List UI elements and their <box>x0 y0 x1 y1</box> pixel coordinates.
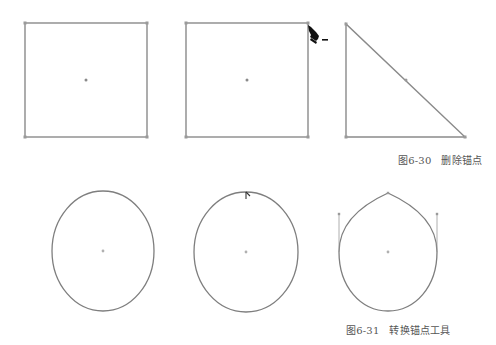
square-original <box>24 22 149 139</box>
center-point <box>387 251 390 254</box>
center-point <box>245 251 248 254</box>
ellipse-original <box>52 191 154 311</box>
ellipse-convert-anchor <box>194 192 298 312</box>
figure-title: 删除锚点 <box>441 155 482 166</box>
center-point <box>85 79 88 82</box>
teardrop-result <box>338 192 438 311</box>
direction-handles <box>338 213 438 252</box>
figure-6-30 <box>24 22 467 139</box>
center-point <box>246 79 249 82</box>
figure-caption-6-31: 图6-31转换锚点工具 <box>346 322 451 337</box>
center-point <box>102 250 105 253</box>
triangle-result <box>345 23 467 139</box>
square-delete-anchor <box>185 22 329 139</box>
figure-number: 图6-31 <box>346 325 379 336</box>
illustration-canvas <box>0 0 496 345</box>
pen-minus-cursor-icon <box>308 25 328 44</box>
figure-number: 图6-30 <box>398 155 431 166</box>
convert-anchor-cursor-icon <box>246 192 250 199</box>
figure-caption-6-30: 图6-30删除锚点 <box>398 152 482 167</box>
anchor-point-top <box>387 192 389 194</box>
figure-title: 转换锚点工具 <box>389 325 450 336</box>
center-point <box>405 79 408 82</box>
figure-6-31 <box>52 191 438 312</box>
